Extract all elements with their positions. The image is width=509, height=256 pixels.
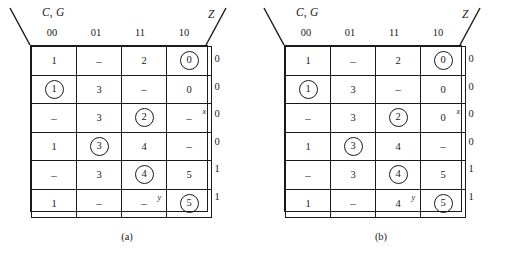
- output-value: 1: [209, 155, 225, 183]
- output-value: 1: [463, 155, 479, 183]
- kmap-cell[interactable]: 3: [331, 161, 376, 190]
- kmap-cell[interactable]: 4: [376, 132, 421, 161]
- kmap-cell[interactable]: –: [421, 132, 466, 161]
- circled-state-value: 0: [434, 51, 453, 70]
- kmap-cell[interactable]: –: [77, 47, 122, 76]
- kmap-cell[interactable]: 1: [32, 132, 77, 161]
- kmap-cell[interactable]: 2: [376, 47, 421, 76]
- kmap-cell[interactable]: –: [331, 47, 376, 76]
- kmap-cell[interactable]: 2: [122, 47, 167, 76]
- kmap-cell[interactable]: –: [286, 161, 331, 190]
- kmap-cell[interactable]: 5: [167, 189, 212, 218]
- state-value: 4: [141, 141, 146, 152]
- circled-state-value: 5: [434, 194, 453, 213]
- output-value: 0: [209, 45, 225, 73]
- kmap-table: 1–2013–0–32–x134––3451––y5: [31, 46, 212, 218]
- kmap-cell[interactable]: 2: [376, 104, 421, 133]
- cell-superscript-label: x: [456, 107, 460, 116]
- cell-superscript-label: x: [202, 107, 206, 116]
- kmap-cell[interactable]: –y: [122, 189, 167, 218]
- state-value: –: [350, 197, 356, 209]
- kmap-cell[interactable]: 0: [167, 75, 212, 104]
- kmap-cell[interactable]: 1: [32, 47, 77, 76]
- state-value: 4: [395, 141, 400, 152]
- kmap-cell[interactable]: –: [331, 189, 376, 218]
- output-variable-label: Z: [462, 8, 468, 20]
- kmap-cell[interactable]: 3: [331, 132, 376, 161]
- kmap-cell[interactable]: 3: [77, 104, 122, 133]
- output-column: 000011: [463, 45, 479, 210]
- kmap-cell[interactable]: 3: [77, 161, 122, 190]
- column-header: 11: [372, 26, 416, 40]
- state-value: 3: [96, 112, 101, 123]
- kmap-cell[interactable]: 1: [286, 47, 331, 76]
- state-value: 1: [51, 198, 56, 209]
- kmap-cell[interactable]: 3: [331, 75, 376, 104]
- kmap-cell[interactable]: –: [122, 75, 167, 104]
- circled-state-value: 4: [389, 165, 408, 184]
- table-row: 1–20: [286, 47, 466, 76]
- kmap-cell[interactable]: 1: [32, 189, 77, 218]
- kmap-cell[interactable]: 0: [421, 75, 466, 104]
- table-row: 1–4y5: [286, 189, 466, 218]
- state-value: –: [305, 169, 311, 181]
- kmap-cell[interactable]: 0: [167, 47, 212, 76]
- column-header: 10: [162, 26, 206, 40]
- state-value: –: [96, 55, 102, 67]
- kmap-cell[interactable]: –: [167, 132, 212, 161]
- kmap-cell[interactable]: 5: [167, 161, 212, 190]
- kmap-cell[interactable]: –: [376, 75, 421, 104]
- state-value: 3: [350, 112, 355, 123]
- kmap-cell[interactable]: –: [32, 104, 77, 133]
- table-row: 134–: [32, 132, 212, 161]
- column-header: 10: [416, 26, 460, 40]
- state-value: –: [350, 55, 356, 67]
- state-value: –: [51, 169, 57, 181]
- state-value: 5: [440, 169, 445, 180]
- kmap-cell[interactable]: 1: [286, 132, 331, 161]
- kmap-cell[interactable]: 0: [421, 47, 466, 76]
- kmap-cell[interactable]: 1: [286, 189, 331, 218]
- kmap-cell[interactable]: 1: [286, 75, 331, 104]
- table-row: 134–: [286, 132, 466, 161]
- column-header: 11: [118, 26, 162, 40]
- output-value: 0: [209, 100, 225, 128]
- kmap-cell[interactable]: 1: [32, 75, 77, 104]
- kmap-cell[interactable]: 4: [122, 132, 167, 161]
- state-value: 2: [141, 55, 146, 66]
- kmap-cell[interactable]: –: [32, 161, 77, 190]
- table-row: –320x: [286, 104, 466, 133]
- kmap-cell[interactable]: 3: [331, 104, 376, 133]
- state-value: –: [305, 112, 311, 124]
- kmap-cell[interactable]: 4y: [376, 189, 421, 218]
- table-row: 1––y5: [32, 189, 212, 218]
- kmap-cell[interactable]: 3: [77, 75, 122, 104]
- kmap-header: C, GZ00011110: [254, 0, 508, 45]
- figure-karnaugh-maps: C, GZ000111101–2013–0–32–x134––3451––y50…: [0, 0, 509, 256]
- state-value: 2: [395, 55, 400, 66]
- output-value: 0: [463, 128, 479, 156]
- output-variable-label: Z: [208, 8, 214, 20]
- column-header: 01: [328, 26, 372, 40]
- kmap-cell[interactable]: 5: [421, 189, 466, 218]
- state-value: 3: [350, 169, 355, 180]
- table-row: –345: [286, 161, 466, 190]
- kmap-cell[interactable]: 2: [122, 104, 167, 133]
- table-row: –32–x: [32, 104, 212, 133]
- table-row: 13–0: [286, 75, 466, 104]
- state-value: 1: [51, 55, 56, 66]
- kmap-table: 1–2013–0–320x134––3451–4y5: [285, 46, 466, 218]
- state-value: 5: [186, 169, 191, 180]
- kmap-cell[interactable]: 0x: [421, 104, 466, 133]
- kmap-cell[interactable]: –: [77, 189, 122, 218]
- state-value: 1: [305, 198, 310, 209]
- kmap-cell[interactable]: 5: [421, 161, 466, 190]
- kmap-cell[interactable]: –: [286, 104, 331, 133]
- column-header: 01: [74, 26, 118, 40]
- kmap-cell[interactable]: 3: [77, 132, 122, 161]
- kmap-cell[interactable]: 4: [122, 161, 167, 190]
- state-value: 3: [96, 84, 101, 95]
- circled-state-value: 2: [389, 108, 408, 127]
- kmap-cell[interactable]: 4: [376, 161, 421, 190]
- kmap-cell[interactable]: –x: [167, 104, 212, 133]
